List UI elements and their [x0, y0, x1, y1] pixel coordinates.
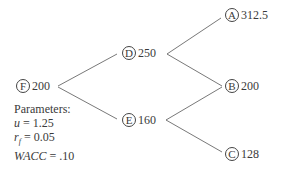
node-C: C 128	[225, 146, 259, 162]
node-F: F 200	[16, 78, 50, 94]
node-F-value: 200	[32, 79, 50, 94]
param-wacc: WACC = .10	[14, 149, 74, 163]
param-rf: rf = 0.05	[14, 130, 74, 149]
node-A-value: 312.5	[241, 8, 268, 23]
node-A-circle: A	[225, 8, 239, 22]
node-D: D 250	[122, 45, 156, 61]
edge-E-C	[166, 120, 222, 152]
node-C-circle: C	[225, 147, 239, 161]
edge-D-B	[167, 54, 222, 86]
node-B-value: 200	[241, 79, 259, 94]
node-B-circle: B	[225, 79, 239, 93]
node-C-value: 128	[241, 147, 259, 162]
node-E-circle: E	[122, 113, 136, 127]
node-B: B 200	[225, 78, 259, 94]
node-D-circle: D	[122, 46, 136, 60]
node-A: A 312.5	[225, 7, 268, 23]
node-F-circle: F	[16, 79, 30, 93]
node-E-value: 160	[138, 113, 156, 128]
node-E: E 160	[122, 112, 156, 128]
param-u: u = 1.25	[14, 116, 74, 130]
edge-F-D	[58, 54, 117, 86]
parameters-block: Parameters: u = 1.25 rf = 0.05 WACC = .1…	[14, 102, 74, 163]
edge-D-A	[167, 18, 221, 54]
edge-E-B	[166, 87, 222, 120]
parameters-title: Parameters:	[14, 102, 74, 116]
node-D-value: 250	[138, 46, 156, 61]
